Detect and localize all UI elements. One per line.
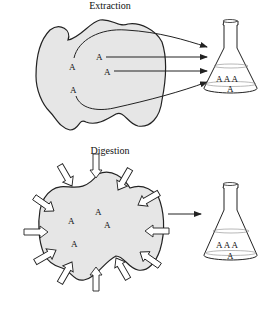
flask-analyte-label: A A A	[216, 74, 239, 84]
analyte-label: A	[104, 220, 111, 230]
analyte-label: A	[95, 207, 102, 217]
flask-analyte-label: A	[227, 251, 234, 261]
flask-analyte-label: A	[227, 84, 234, 94]
analyte-label: A	[69, 62, 76, 72]
flask-analyte-label: A A A	[216, 240, 239, 250]
digestion-panel: A A A A A A A A	[24, 154, 257, 291]
extraction-flask: A A A A	[204, 20, 257, 95]
analyte-label: A	[70, 85, 77, 95]
hollow-arrow-icon	[55, 162, 77, 189]
analyte-label: A	[96, 52, 103, 62]
digestion-sample-blob	[39, 172, 164, 280]
analyte-label: A	[71, 239, 78, 249]
digestion-flask: A A A A	[204, 183, 257, 262]
extraction-sample-blob	[36, 20, 166, 130]
analyte-label: A	[68, 216, 75, 226]
analyte-label: A	[104, 67, 111, 77]
extraction-panel: A A A A A A A A	[36, 20, 257, 131]
diagram-canvas: A A A A A A A A A A A A	[0, 0, 277, 315]
